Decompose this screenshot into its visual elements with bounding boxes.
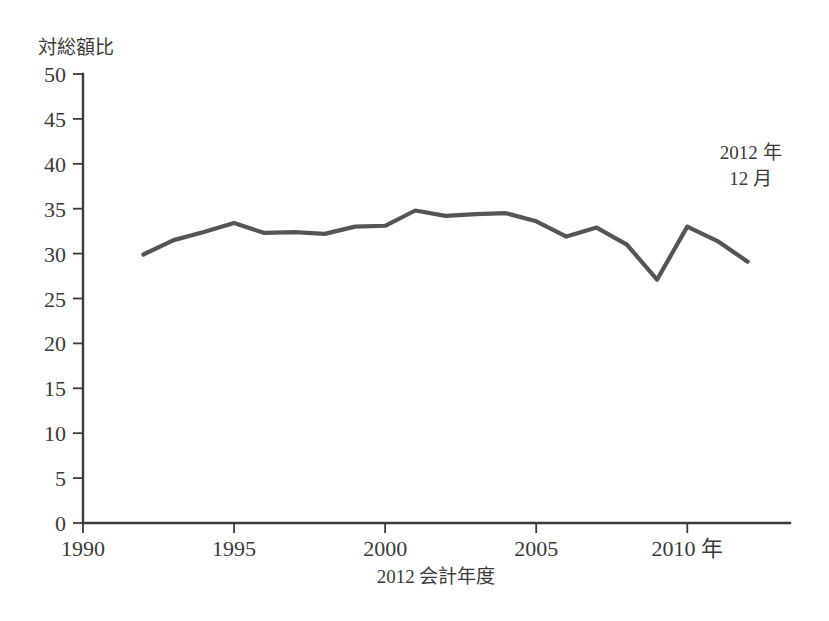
y-tick-label: 30	[44, 242, 66, 267]
x-tick-label: 1995	[212, 536, 256, 561]
y-tick-label: 50	[44, 62, 66, 87]
y-axis-title: 対総額比	[38, 37, 114, 58]
x-axis-title: 2012 会計年度	[377, 566, 496, 587]
y-axis-tick-labels: 05101520253035404550	[44, 62, 66, 536]
end-point-callout: 2012 年12 月	[720, 142, 782, 189]
y-axis-ticks	[73, 74, 83, 523]
x-tick-label: 2010 年	[652, 536, 724, 561]
y-tick-label: 15	[44, 376, 66, 401]
y-axis-group: 05101520253035404550	[44, 62, 83, 536]
x-tick-label: 2005	[514, 536, 558, 561]
data-series-line	[143, 211, 747, 280]
y-tick-label: 40	[44, 152, 66, 177]
x-tick-label: 1990	[61, 536, 105, 561]
chart-annotations: 2012 年12 月	[720, 142, 782, 189]
y-tick-label: 5	[55, 466, 66, 491]
line-chart-figure: 05101520253035404550 1990199520002005201…	[0, 0, 829, 621]
x-tick-label: 2000	[363, 536, 407, 561]
x-axis-group: 19901995200020052010 年	[61, 523, 790, 561]
y-tick-label: 35	[44, 197, 66, 222]
y-tick-label: 10	[44, 421, 66, 446]
y-tick-label: 45	[44, 107, 66, 132]
x-axis-ticks	[83, 523, 687, 533]
y-tick-label: 0	[55, 511, 66, 536]
x-axis-tick-labels: 19901995200020052010 年	[61, 536, 723, 561]
chart-canvas: 05101520253035404550 1990199520002005201…	[0, 0, 829, 621]
y-tick-label: 25	[44, 287, 66, 312]
y-tick-label: 20	[44, 331, 66, 356]
